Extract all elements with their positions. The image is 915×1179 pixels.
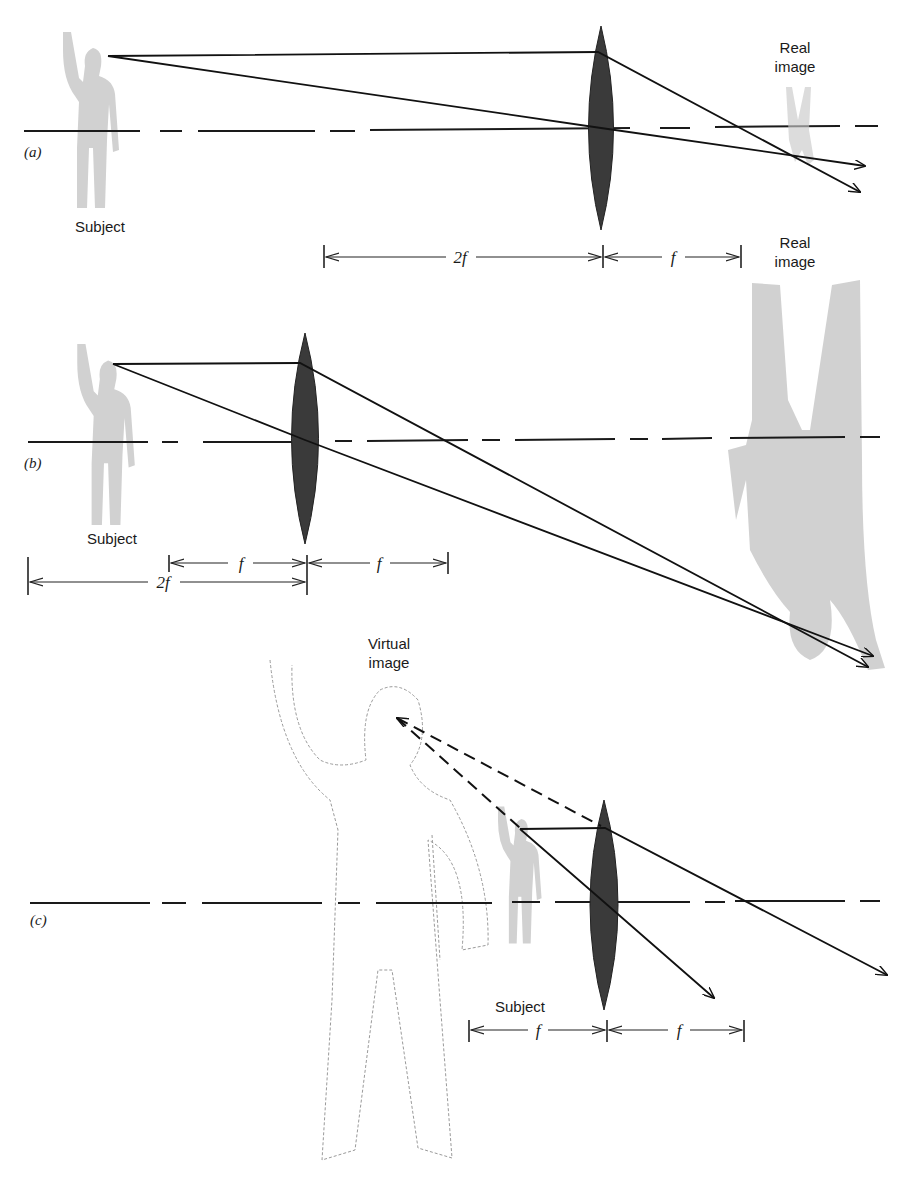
dimension-f-right: f (307, 552, 448, 595)
virtual-image-outline (270, 660, 488, 1160)
dimension-label: f (377, 554, 384, 573)
subject-figure (498, 807, 542, 944)
image-label-line2: image (775, 58, 816, 75)
panel-label: (b) (24, 455, 42, 472)
panel-c: (c) Subject Virtual image f f (30, 635, 887, 1160)
optical-axis (24, 126, 878, 131)
optical-axis (30, 901, 880, 903)
dimension-f: f (603, 245, 741, 268)
subject-label: Subject (87, 530, 138, 547)
image-label-line2: image (775, 253, 816, 270)
dimension-label: f (239, 554, 246, 573)
subject-figure (63, 32, 119, 208)
dimension-f-left: f (469, 1020, 605, 1042)
image-label-line1: Real (780, 39, 811, 56)
converging-lens (292, 333, 319, 544)
converging-lens (590, 800, 618, 1010)
dimension-label: 2f (156, 573, 172, 592)
image-label-line2: image (369, 654, 410, 671)
chief-ray (520, 829, 714, 998)
dimension-label: 2f (453, 248, 469, 267)
converging-lens-figure: (a) Subject Real image 2f f (0, 0, 915, 1179)
subject-figure (77, 344, 135, 525)
dimension-label: f (677, 1021, 684, 1040)
chief-ray (108, 56, 865, 166)
dimension-label: f (536, 1021, 543, 1040)
panel-label: (a) (24, 144, 42, 161)
panel-label: (c) (30, 912, 47, 929)
subject-label: Subject (495, 998, 546, 1015)
dimension-2f: 2f (324, 245, 601, 268)
panel-b: (b) Subject Real image f f 2f (24, 234, 885, 670)
dimension-f-left: f (169, 554, 305, 573)
dimension-f-right: f (607, 1020, 744, 1042)
image-label-line1: Virtual (368, 635, 410, 652)
subject-label: Subject (75, 218, 126, 235)
panel-a: (a) Subject Real image 2f f (24, 26, 878, 268)
real-image-figure (728, 280, 885, 670)
image-label-line1: Real (780, 234, 811, 251)
dimension-label: f (671, 248, 678, 267)
